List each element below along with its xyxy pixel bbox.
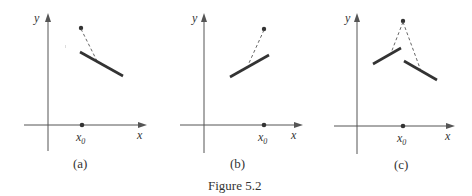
- graph-segment-right: [404, 61, 437, 80]
- x-axis-label: x: [444, 129, 451, 143]
- y-axis-arrow-icon: [354, 13, 360, 22]
- panel-a: y x x0 (a): [24, 11, 147, 171]
- y-axis-arrow-icon: [45, 13, 51, 22]
- figure-5-2: y x x0 (a) y x x0 (b) y x x0: [0, 0, 472, 196]
- panel-c: y x x0 (c): [334, 11, 455, 172]
- x-axis-label: x: [290, 128, 297, 142]
- scan-artifact: [65, 45, 66, 48]
- y-axis-label: y: [191, 11, 198, 25]
- graph-segment: [230, 55, 269, 77]
- panel-label: (a): [73, 156, 87, 171]
- dashed-connector-left: [391, 22, 403, 53]
- x0-label: x0: [257, 130, 267, 146]
- panel-b: y x x0 (b): [180, 11, 303, 171]
- graph-segment: [80, 52, 123, 76]
- y-axis-label: y: [344, 11, 351, 25]
- dashed-connector-right: [403, 22, 421, 71]
- x0-point: [262, 123, 267, 128]
- panel-label: (c): [394, 157, 408, 172]
- x0-label: x0: [396, 131, 406, 147]
- x0-point: [80, 123, 85, 128]
- x0-label: x0: [75, 130, 85, 146]
- x0-point: [401, 124, 406, 129]
- graph-segment-left: [373, 48, 401, 64]
- figure-caption: Figure 5.2: [208, 178, 261, 193]
- y-axis-arrow-icon: [201, 13, 207, 22]
- panel-label: (b): [230, 156, 245, 171]
- y-axis-label: y: [33, 11, 40, 25]
- x-axis-label: x: [136, 128, 143, 142]
